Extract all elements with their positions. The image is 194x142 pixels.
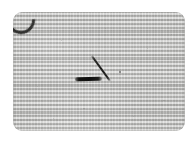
image-caption: Grayscale photograph of a light gray wov… (0, 0, 1, 1)
texture-speck (53, 118, 54, 119)
textile-swatch (13, 12, 185, 131)
texture-speck (147, 48, 148, 49)
texture-speck (133, 116, 134, 117)
ink-mark-group (13, 12, 185, 131)
corner-arc-defect (13, 12, 41, 40)
texture-speck (83, 108, 85, 109)
texture-speck (105, 28, 106, 29)
thin-diagonal-stroke (91, 55, 110, 81)
photograph-canvas: Grayscale photograph of a light gray wov… (0, 0, 194, 142)
texture-speck (119, 71, 121, 73)
texture-speck (163, 100, 165, 101)
texture-speck (37, 86, 38, 87)
texture-speck (61, 40, 62, 41)
texture-speck (171, 34, 172, 35)
thick-horizontal-stroke (75, 77, 102, 81)
